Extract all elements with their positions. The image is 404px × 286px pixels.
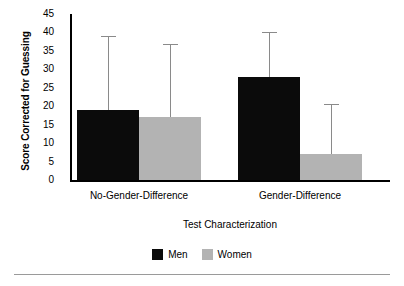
- bar-women-group2: [300, 154, 362, 180]
- x-axis-line: [70, 180, 390, 182]
- x-tick-label-group1: No-Gender-Difference: [49, 190, 229, 202]
- legend-swatch-women-icon: [202, 249, 213, 260]
- y-tick-label: 5: [32, 157, 54, 167]
- y-tick-label: 0: [32, 175, 54, 185]
- error-cap-men-group2: [262, 32, 277, 33]
- legend-item-men: Men: [152, 249, 187, 260]
- bar-women-group1: [139, 117, 201, 180]
- bar-men-group2: [238, 77, 300, 180]
- legend-label-men: Men: [168, 249, 187, 260]
- y-tick-label: 10: [32, 138, 54, 148]
- error-bar-women-group2: [331, 104, 332, 154]
- y-axis-line: [70, 14, 72, 180]
- plot-area: 051015202530354045: [70, 14, 390, 182]
- y-tick-label: 30: [32, 64, 54, 74]
- error-bar-men-group2: [269, 32, 270, 76]
- x-axis-title: Test Characterization: [70, 219, 390, 230]
- y-tick-label: 25: [32, 83, 54, 93]
- chart-figure: Score Corrected for Guessing 05101520253…: [0, 0, 404, 286]
- legend-swatch-men-icon: [152, 249, 163, 260]
- x-tick-label-group2: Gender-Difference: [210, 190, 390, 202]
- y-tick-label: 45: [32, 9, 54, 19]
- chart-legend: Men Women: [0, 249, 404, 260]
- y-tick-label: 35: [32, 46, 54, 56]
- y-tick-label: 20: [32, 101, 54, 111]
- bar-men-group1: [77, 110, 139, 180]
- y-tick-label: 40: [32, 27, 54, 37]
- error-bar-women-group1: [170, 44, 171, 118]
- legend-item-women: Women: [202, 249, 252, 260]
- error-bar-men-group1: [108, 36, 109, 110]
- legend-label-women: Women: [218, 249, 252, 260]
- footer-divider: [14, 274, 390, 275]
- error-cap-men-group1: [101, 36, 116, 37]
- error-cap-women-group1: [163, 44, 178, 45]
- error-cap-women-group2: [324, 104, 339, 105]
- y-tick-label: 15: [32, 120, 54, 130]
